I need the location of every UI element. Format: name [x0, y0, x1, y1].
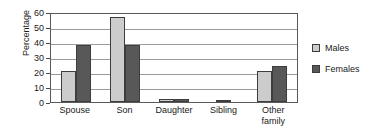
legend-item: Females: [312, 64, 360, 74]
y-axis-tick-mark: [46, 103, 50, 104]
bar: [174, 99, 189, 102]
y-axis-tick-mark: [46, 58, 50, 59]
y-axis-tick-label: 50: [34, 24, 44, 33]
x-axis-category-label: Daughter: [149, 105, 199, 127]
y-axis-tick-mark: [46, 13, 50, 14]
bar-group: [248, 14, 297, 102]
y-axis-tick-mark: [46, 28, 50, 29]
chart-legend: MalesFemales: [312, 43, 360, 74]
bar: [159, 99, 174, 102]
y-axis-tick-label: 0: [39, 99, 44, 108]
x-axis-category-labels: SpouseSonDaughterSiblingOtherfamily: [50, 105, 298, 127]
legend-swatch-icon: [312, 44, 320, 52]
legend-label: Males: [325, 43, 349, 53]
bar: [110, 17, 125, 103]
bar-group: [199, 14, 248, 102]
x-axis-category-label: Sibling: [199, 105, 249, 127]
y-axis-tick-labels: 0102030405060: [24, 13, 44, 103]
bar-group: [51, 14, 100, 102]
y-axis-tick-mark: [46, 88, 50, 89]
x-axis-label-line: Sibling: [199, 105, 249, 116]
y-axis-tick-label: 10: [34, 84, 44, 93]
legend-label: Females: [325, 64, 360, 74]
legend-item: Males: [312, 43, 360, 53]
y-axis-tick-mark: [46, 73, 50, 74]
bar-group: [100, 14, 149, 102]
bar: [257, 71, 272, 103]
bar-groups: [51, 14, 297, 102]
x-axis-label-line: family: [248, 116, 298, 127]
bar-chart: Percentage 0102030405060 SpouseSonDaught…: [0, 0, 384, 140]
y-axis-tick-label: 60: [34, 9, 44, 18]
x-axis-category-label: Spouse: [50, 105, 100, 127]
x-axis-label-line: Daughter: [149, 105, 199, 116]
y-axis-tick-label: 20: [34, 69, 44, 78]
y-axis-tick-label: 30: [34, 54, 44, 63]
bar: [61, 71, 76, 103]
x-axis-label-line: Son: [100, 105, 150, 116]
bar-group: [149, 14, 198, 102]
bar: [76, 45, 91, 102]
y-axis-tick-label: 40: [34, 39, 44, 48]
x-axis-category-label: Son: [100, 105, 150, 127]
legend-swatch-icon: [312, 65, 320, 73]
plot-area: [50, 13, 298, 103]
bar: [125, 45, 140, 102]
x-axis-category-label: Otherfamily: [248, 105, 298, 127]
x-axis-label-line: Other: [248, 105, 298, 116]
y-axis-tick-mark: [46, 43, 50, 44]
x-axis-label-line: Spouse: [50, 105, 100, 116]
bar: [272, 66, 287, 102]
bar: [216, 100, 231, 102]
